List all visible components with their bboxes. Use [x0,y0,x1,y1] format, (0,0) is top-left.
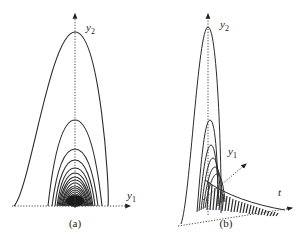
panel-a-caption: (a) [69,217,82,230]
panel-b-caption: (b) [220,217,233,230]
panel-b-curves [181,27,225,224]
panel-b-y2-label: y2 [219,18,229,33]
panel-b-t-axis [178,208,292,226]
figure-canvas: y2 y1 (a) y2 [0,0,306,245]
panel-a-y1-label: y1 [126,189,136,204]
panel-a-y2-label: y2 [85,21,95,36]
panel-b-y1-label: y1 [227,145,237,160]
panel-b: y2 y1 t (b) [178,14,292,230]
panel-a-curves [14,32,108,206]
panel-a: y2 y1 (a) [12,14,136,230]
panel-b-t-label: t [278,186,282,198]
